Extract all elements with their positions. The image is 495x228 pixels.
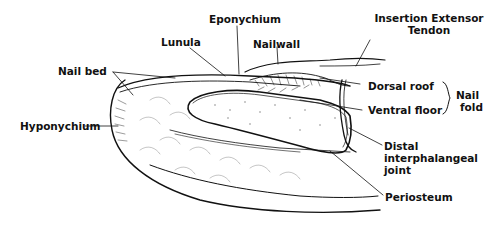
- distal-phalanx: [188, 90, 351, 153]
- label-insertion-extensor-line2: Tendon: [365, 24, 493, 36]
- nail-anatomy-diagram: Eponychium Insertion Extensor Tendon Lun…: [0, 0, 495, 228]
- label-distal-line1: Distal: [384, 140, 418, 152]
- label-nail-bed: Nail bed: [58, 65, 107, 77]
- label-eponychium: Eponychium: [209, 13, 281, 25]
- label-nailwall: Nailwall: [253, 38, 300, 50]
- periosteum-line: [170, 130, 350, 152]
- label-hyponychium: Hyponychium: [20, 120, 100, 132]
- label-dorsal-roof: Dorsal roof: [368, 80, 434, 92]
- label-distal-line2: interphalangeal: [384, 152, 478, 164]
- label-lunula: Lunula: [161, 36, 201, 48]
- joint-capsule: [340, 80, 356, 152]
- label-nail-fold-line2: fold: [460, 101, 483, 113]
- label-distal-line3: joint: [384, 164, 411, 176]
- label-periosteum: Periosteum: [385, 191, 453, 203]
- label-nail-fold-line1: Nail: [456, 89, 479, 101]
- nail-fold-brace: [443, 82, 450, 114]
- label-insertion-extensor-line1: Insertion Extensor: [365, 12, 493, 24]
- label-ventral-floor: Ventral floor: [368, 104, 442, 116]
